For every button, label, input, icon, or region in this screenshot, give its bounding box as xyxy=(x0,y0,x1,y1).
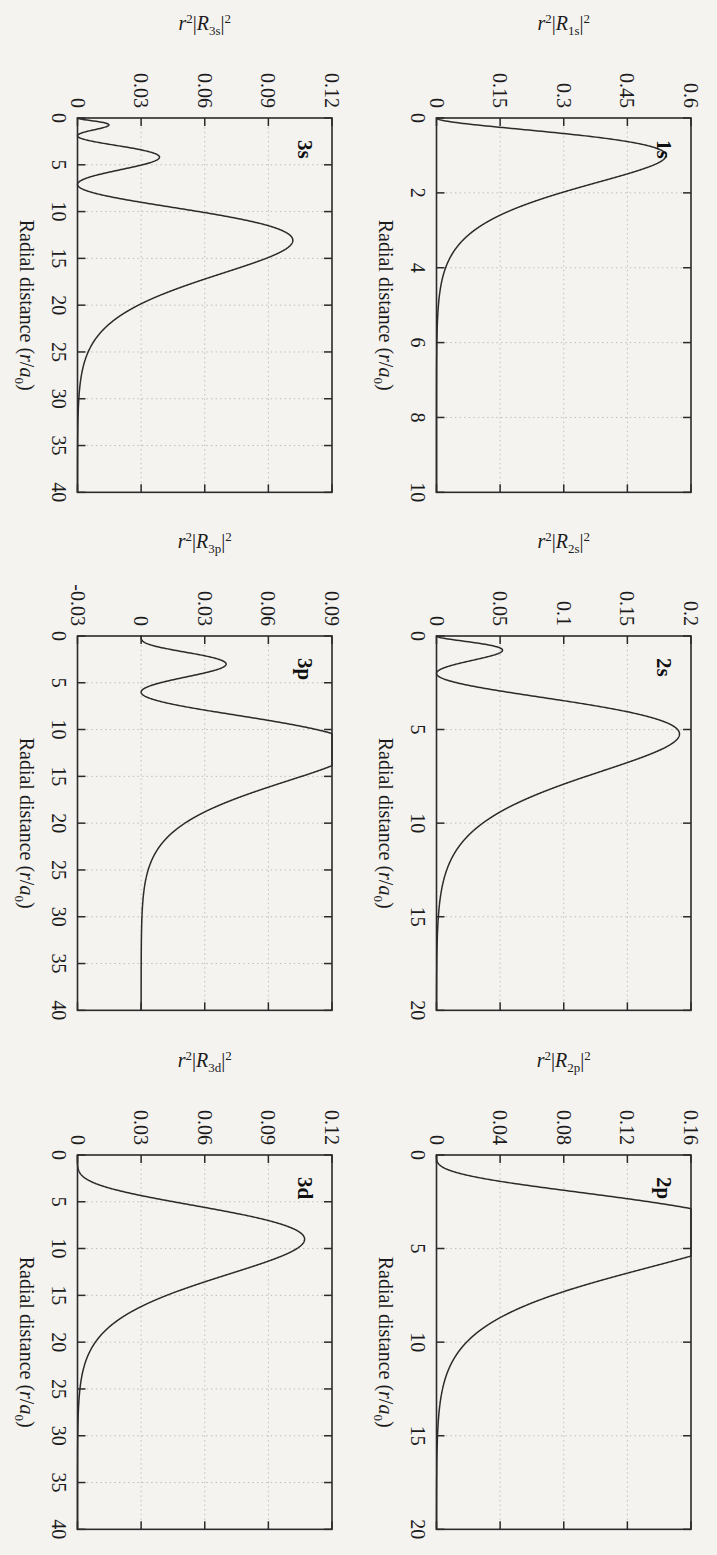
gridlines xyxy=(78,636,332,1010)
x-tick-label: 0 xyxy=(407,631,429,641)
y-axis-title: r2|R3s|2 xyxy=(179,11,232,38)
panel-title-3p: 3p xyxy=(293,658,317,680)
y-tick-label: 0.45 xyxy=(616,73,638,108)
plot-panel-3d: 051015202530354000.030.060.090.12Radial … xyxy=(0,1037,359,1555)
x-axis-title: Radial distance (r/a0) xyxy=(12,1256,38,1427)
y-axis-title: r2|R1s|2 xyxy=(537,11,590,38)
plot-panel-3p: 0510152025303540-0.0300.030.060.09Radial… xyxy=(0,518,359,1036)
gridlines xyxy=(78,118,332,492)
x-tick-label: 20 xyxy=(48,813,70,833)
x-tick-label: 20 xyxy=(48,1332,70,1352)
y-tick-label: 0 xyxy=(426,98,448,108)
x-tick-label: 40 xyxy=(48,482,70,502)
y-axis-title: r2|R2s|2 xyxy=(537,529,590,556)
x-tick-label: 15 xyxy=(407,907,429,927)
x-axis-title: Radial distance (r/a0) xyxy=(12,220,38,391)
y-tick-label: 0.09 xyxy=(321,591,343,626)
y-axis-title: r2|R3p|2 xyxy=(178,529,232,556)
plot-panel-2p: 0510152000.040.080.120.16Radial distance… xyxy=(359,1037,717,1555)
y-tick-label: 0.06 xyxy=(194,1110,216,1145)
x-tick-label: 35 xyxy=(48,954,70,974)
panel-title-3d: 3d xyxy=(293,1177,317,1199)
x-tick-label: 25 xyxy=(48,860,70,880)
x-tick-label: 10 xyxy=(48,1238,70,1258)
x-tick-label: 0 xyxy=(407,113,429,123)
x-tick-label: 10 xyxy=(48,202,70,222)
y-tick-label: 0.09 xyxy=(258,73,280,108)
y-tick-label: 0.05 xyxy=(489,591,511,626)
plot-svg-1s: 024681000.150.30.450.6Radial distance (r… xyxy=(359,0,717,518)
y-tick-label: 0.04 xyxy=(489,1110,511,1145)
data-curve-1s xyxy=(437,118,667,492)
plot-panel-3s: 051015202530354000.030.060.090.12Radial … xyxy=(0,0,359,518)
x-tick-label: 2 xyxy=(407,188,429,198)
x-tick-label: 10 xyxy=(407,1332,429,1352)
x-tick-label: 15 xyxy=(48,767,70,787)
plot-svg-2p: 0510152000.040.080.120.16Radial distance… xyxy=(359,1037,717,1555)
panel-title-1s: 1s xyxy=(652,140,676,159)
x-tick-label: 0 xyxy=(48,1150,70,1160)
x-tick-label: 15 xyxy=(48,1285,70,1305)
plot-panel-2s: 0510152000.050.10.150.2Radial distance (… xyxy=(359,518,717,1036)
y-tick-label: 0.09 xyxy=(258,1110,280,1145)
plot-svg-3d: 051015202530354000.030.060.090.12Radial … xyxy=(0,1037,359,1555)
x-tick-label: 15 xyxy=(48,248,70,268)
y-tick-label: 0.16 xyxy=(680,1110,702,1145)
x-tick-label: 15 xyxy=(407,1425,429,1445)
x-axis-title: Radial distance (r/a0) xyxy=(371,220,397,391)
y-tick-label: 0 xyxy=(426,616,448,626)
y-tick-label: 0 xyxy=(131,616,153,626)
x-tick-label: 5 xyxy=(48,1196,70,1206)
x-tick-label: 40 xyxy=(48,1001,70,1021)
x-axis-title: Radial distance (r/a0) xyxy=(12,738,38,909)
x-tick-label: 5 xyxy=(407,725,429,735)
y-tick-label: 0.06 xyxy=(258,591,280,626)
y-tick-label: 0.12 xyxy=(321,73,343,108)
x-tick-label: 5 xyxy=(48,678,70,688)
panel-title-3s: 3s xyxy=(293,140,317,159)
panel-grid: 024681000.150.30.450.6Radial distance (r… xyxy=(0,0,717,1555)
x-tick-label: 6 xyxy=(407,338,429,348)
y-tick-label: 0.3 xyxy=(553,83,575,108)
x-tick-label: 30 xyxy=(48,1425,70,1445)
gridlines xyxy=(437,636,691,1010)
y-tick-label: 0.15 xyxy=(616,591,638,626)
x-axis-title: Radial distance (r/a0) xyxy=(371,738,397,909)
x-tick-label: 10 xyxy=(407,482,429,502)
x-tick-label: 30 xyxy=(48,389,70,409)
y-tick-label: 0.03 xyxy=(194,591,216,626)
x-tick-label: 8 xyxy=(407,412,429,422)
y-tick-label: 0.15 xyxy=(489,73,511,108)
plot-panel-1s: 024681000.150.30.450.6Radial distance (r… xyxy=(359,0,717,518)
y-tick-label: 0.08 xyxy=(553,1110,575,1145)
x-tick-label: 20 xyxy=(407,1519,429,1539)
y-axis-title: r2|R3d|2 xyxy=(178,1048,232,1075)
panel-title-2s: 2s xyxy=(652,658,676,677)
y-tick-label: 0.03 xyxy=(131,73,153,108)
x-tick-label: 25 xyxy=(48,342,70,362)
x-tick-label: 20 xyxy=(407,1001,429,1021)
x-tick-label: 20 xyxy=(48,295,70,315)
x-tick-label: 0 xyxy=(407,1150,429,1160)
gridlines xyxy=(437,1155,691,1529)
x-tick-label: 40 xyxy=(48,1519,70,1539)
panel-title-2p: 2p xyxy=(652,1177,676,1199)
gridlines xyxy=(78,1155,332,1529)
y-tick-label: 0.6 xyxy=(680,83,702,108)
x-tick-label: 10 xyxy=(48,720,70,740)
plot-svg-3s: 051015202530354000.030.060.090.12Radial … xyxy=(0,0,359,518)
y-tick-label: 0 xyxy=(67,1135,89,1145)
y-tick-label: 0 xyxy=(426,1135,448,1145)
y-tick-label: 0.03 xyxy=(131,1110,153,1145)
gridlines xyxy=(437,118,691,492)
plot-svg-3p: 0510152025303540-0.0300.030.060.09Radial… xyxy=(0,518,359,1036)
x-tick-label: 35 xyxy=(48,1472,70,1492)
y-tick-label: 0.2 xyxy=(680,601,702,626)
x-tick-label: 25 xyxy=(48,1379,70,1399)
x-tick-label: 30 xyxy=(48,907,70,927)
x-tick-label: 35 xyxy=(48,436,70,456)
x-tick-label: 4 xyxy=(407,263,429,273)
x-tick-label: 0 xyxy=(48,113,70,123)
data-curve-3d xyxy=(78,1155,305,1529)
data-curve-2s xyxy=(437,636,680,1010)
